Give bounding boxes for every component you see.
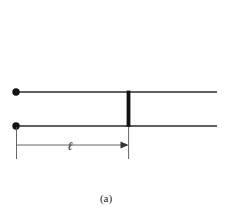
shorting-bar	[127, 91, 131, 127]
dimension-length-label: ℓ	[68, 139, 73, 153]
lower-terminal-dot	[12, 122, 19, 129]
figure-background	[0, 0, 231, 218]
upper-terminal-dot	[12, 88, 19, 95]
figure-container: ℓ (a)	[0, 0, 231, 218]
transmission-line-diagram: ℓ (a)	[0, 0, 231, 218]
figure-caption: (a)	[100, 192, 113, 205]
